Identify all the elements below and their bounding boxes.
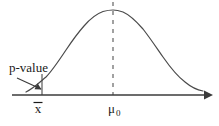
- mu-label-text: μ: [108, 101, 115, 116]
- p-value-distribution-figure: p-value x μ 0: [0, 0, 219, 126]
- mu-subscript-text: 0: [116, 108, 121, 118]
- x-bar-label-text: x: [35, 101, 42, 116]
- x-bar-axis-label: x: [34, 101, 43, 116]
- p-value-label: p-value: [9, 60, 48, 75]
